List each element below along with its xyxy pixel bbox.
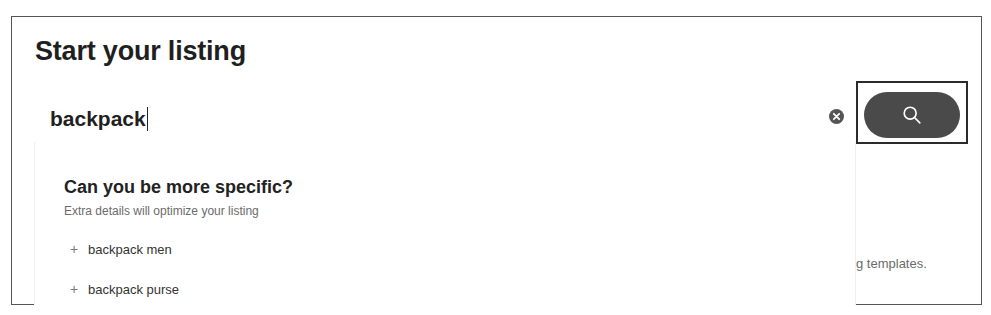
search-icon (901, 104, 923, 126)
search-button[interactable] (864, 92, 960, 138)
search-input[interactable] (34, 96, 834, 142)
plus-icon: + (70, 281, 88, 297)
background-partial-text: g templates. (856, 256, 927, 271)
suggestions-dropdown: Can you be more specific? Extra details … (34, 142, 856, 305)
suggestions-title: Can you be more specific? (64, 177, 293, 198)
page-title: Start your listing (35, 36, 246, 67)
suggestions-subtitle: Extra details will optimize your listing (64, 204, 259, 218)
suggestion-label: backpack purse (88, 282, 179, 297)
plus-icon: + (70, 241, 88, 257)
suggestion-item[interactable]: + backpack men (64, 238, 172, 260)
clear-search-button[interactable] (829, 109, 844, 124)
close-circle-icon (832, 112, 841, 121)
suggestion-item[interactable]: + backpack purse (64, 278, 179, 300)
suggestion-label: backpack men (88, 242, 172, 257)
